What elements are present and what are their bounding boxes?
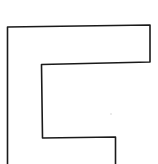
speck-dot bbox=[110, 113, 111, 114]
shape-outline-diagram bbox=[0, 0, 158, 164]
outline-shape bbox=[8, 25, 151, 164]
